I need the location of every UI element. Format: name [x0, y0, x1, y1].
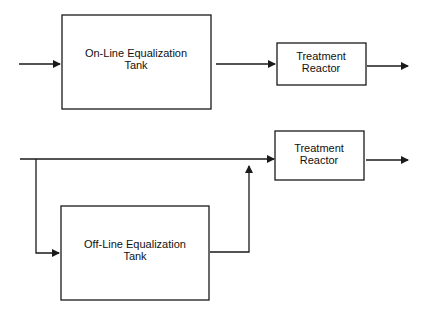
offline-tank-label-line1: Off-Line Equalization: [84, 238, 186, 250]
flow-diagram: On-Line Equalization Tank Treatment Reac…: [0, 0, 428, 314]
bottom-reactor-label-line1: Treatment: [294, 142, 344, 154]
bottom-reactor-label-line2: Reactor: [300, 154, 339, 166]
top-reactor-label-line2: Reactor: [302, 62, 341, 74]
offline-tank-label-line2: Tank: [123, 250, 147, 262]
return-line-from-offline-tank: [210, 166, 249, 252]
online-tank-label-line1: On-Line Equalization: [85, 47, 187, 59]
top-reactor-label-line1: Treatment: [296, 50, 346, 62]
online-tank-label-line2: Tank: [124, 59, 148, 71]
bottom-flow: Off-Line Equalization Tank Treatment Rea…: [20, 131, 408, 300]
top-flow: On-Line Equalization Tank Treatment Reac…: [19, 15, 408, 109]
diversion-line-to-offline-tank: [36, 159, 59, 253]
